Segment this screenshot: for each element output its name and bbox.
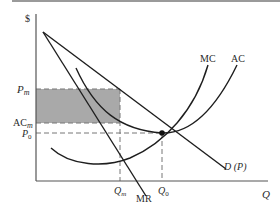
demand-label: D (P): [223, 161, 247, 173]
pm-label: Pm: [16, 83, 30, 97]
q0-label: Q0: [158, 185, 169, 198]
profit-area: [36, 89, 120, 123]
mr-label: MR: [136, 193, 152, 204]
equilibrium-point: [159, 130, 165, 136]
x-axis-label: Q: [262, 188, 270, 200]
monopoly-diagram: $ Q MC AC MR D (P) Pm ACm P0 Qm Q0: [0, 0, 280, 214]
qm-label: Qm: [114, 185, 126, 198]
mc-label: MC: [200, 53, 216, 64]
ac-label: AC: [231, 53, 245, 64]
y-axis-label: $: [25, 13, 30, 24]
